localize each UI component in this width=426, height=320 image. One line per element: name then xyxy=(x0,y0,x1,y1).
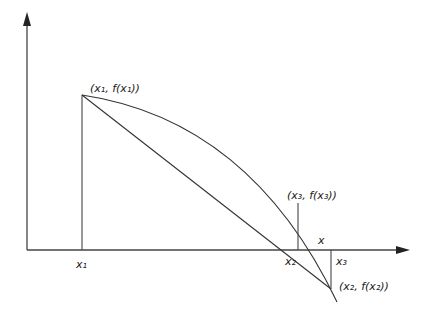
y-axis-arrow-icon xyxy=(23,12,31,26)
label-x1: x₁ xyxy=(75,258,87,271)
label-x2: x₂ xyxy=(284,255,297,268)
label-x: x xyxy=(317,234,325,247)
label-p1: (x₁, f(x₁)) xyxy=(90,82,140,95)
x-axis-arrow-icon xyxy=(396,246,410,254)
secant-diagram: (x₁, f(x₁)) (x₃, f(x₃)) (x₂, f(x₂)) x x₁… xyxy=(0,0,426,320)
label-p3: (x₃, f(x₃)) xyxy=(287,189,337,202)
label-p2: (x₂, f(x₂)) xyxy=(339,280,389,293)
label-x3: x₃ xyxy=(335,255,348,268)
